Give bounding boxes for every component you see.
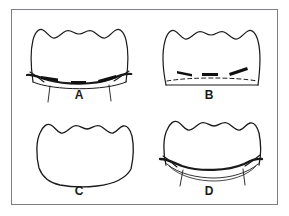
panel-label-b: B — [144, 89, 274, 101]
dashed-line-b — [167, 78, 257, 81]
panel-label-c: C — [14, 185, 144, 197]
black-mark-2-b — [202, 73, 218, 76]
arch-outline-c — [37, 124, 133, 186]
arch-outline-d — [164, 121, 261, 165]
arch-outline-a — [31, 29, 128, 82]
tick-line-right-d — [243, 169, 245, 185]
panel-label-d: D — [144, 185, 274, 197]
panel-label-a: A — [14, 89, 144, 101]
black-mark-1-b — [177, 71, 192, 77]
figure-root: A B C — [0, 0, 289, 216]
arch-outline-b — [163, 30, 260, 85]
black-mark-3-b — [229, 67, 248, 76]
black-mark-2-a — [71, 81, 86, 84]
black-mark-3-a — [98, 75, 117, 83]
